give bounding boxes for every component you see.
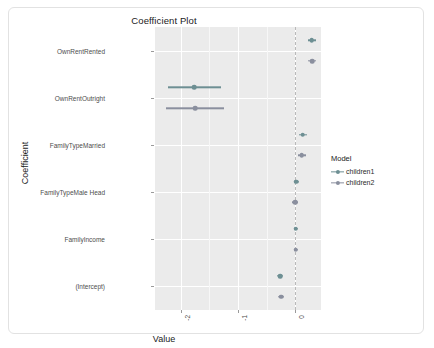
data-point (293, 200, 298, 205)
y-axis-tick-label: OwnRentRented (57, 47, 105, 54)
data-point (299, 153, 304, 158)
y-axis-tick-label: OwnRentOutright (55, 94, 105, 101)
y-axis-tick-mark (151, 51, 154, 52)
page-title: Coefficient Plot (9, 15, 319, 26)
data-point (300, 132, 305, 137)
y-axis-tick-mark (151, 239, 154, 240)
data-point (310, 38, 315, 43)
y-axis-tick-label: FamilyIncome (65, 236, 105, 243)
x-axis-tick-mark (181, 310, 182, 313)
plot-panel (155, 27, 321, 310)
plot-card: Coefficient Plot Coefficient Value OwnRe… (8, 7, 424, 334)
y-axis-tick-mark (151, 145, 154, 146)
data-point (294, 247, 299, 252)
y-axis-tick-mark (151, 286, 154, 287)
gridline-vertical (238, 27, 239, 310)
gridline-vertical-minor (267, 27, 268, 310)
legend-item[interactable]: children1 (331, 166, 374, 177)
legend-item-label: children2 (346, 179, 374, 186)
gridline-vertical-minor (209, 27, 210, 310)
x-axis-title: Value (9, 334, 319, 344)
y-axis-tick-mark (151, 98, 154, 99)
data-point (310, 59, 315, 64)
data-point (192, 85, 197, 90)
data-point (294, 179, 299, 184)
data-point (294, 227, 299, 232)
legend-items: children1children2 (331, 166, 374, 188)
legend-title: Model (331, 154, 374, 163)
data-point (193, 106, 198, 111)
y-axis-tick-label: FamilyTypeMale Head (40, 189, 105, 196)
gridline-vertical (181, 27, 182, 310)
x-axis-tick-label: -2 (184, 315, 191, 321)
legend-key-icon (331, 166, 344, 177)
legend: Model children1children2 (331, 154, 374, 188)
data-point (278, 274, 283, 279)
zero-reference-line (295, 27, 296, 310)
y-axis-tick-label: FamilyTypeMarried (50, 141, 105, 148)
legend-item-label: children1 (346, 168, 374, 175)
y-axis-title: Coefficient (20, 123, 30, 203)
x-axis-tick-label: -1 (241, 315, 248, 321)
y-axis-tick-label: (Intercept) (75, 283, 105, 290)
x-axis-tick-mark (238, 310, 239, 313)
legend-key-icon (331, 177, 344, 188)
x-axis-tick-label: 0 (298, 315, 305, 319)
data-point (279, 294, 284, 299)
legend-item[interactable]: children2 (331, 177, 374, 188)
x-axis-tick-mark (295, 310, 296, 313)
y-axis-tick-mark (151, 192, 154, 193)
